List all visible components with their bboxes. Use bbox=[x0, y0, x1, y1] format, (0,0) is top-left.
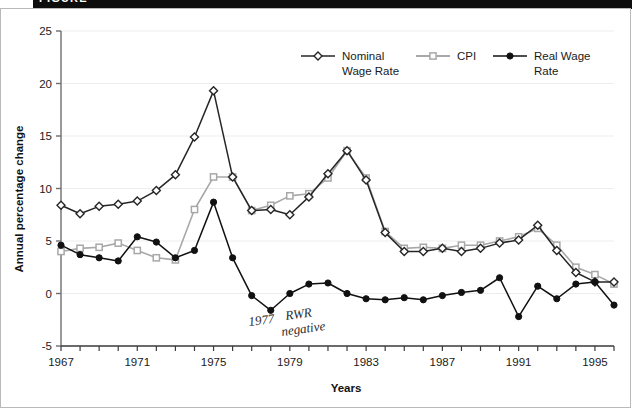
x-axis-tick-labels: 19671971197519791983198719911995 bbox=[48, 346, 614, 368]
legend-label: CPI bbox=[457, 50, 476, 62]
y-axis-tick-labels: -50510152025 bbox=[39, 25, 61, 352]
figure-container: FIGURE -50510152025 19671971197519791983… bbox=[0, 0, 632, 409]
data-point-marker bbox=[554, 296, 560, 302]
data-point-marker bbox=[96, 255, 102, 261]
line-chart: -50510152025 196719711975197919831987199… bbox=[1, 9, 632, 409]
data-point-marker bbox=[573, 281, 579, 287]
series-line bbox=[61, 202, 614, 316]
x-axis-tick-label: 1995 bbox=[582, 356, 608, 368]
legend-item[interactable]: CPI bbox=[416, 50, 476, 62]
data-point-marker bbox=[57, 201, 65, 209]
data-point-marker bbox=[58, 248, 64, 254]
y-axis-tick-label: 25 bbox=[39, 25, 52, 37]
data-point-marker bbox=[592, 279, 598, 285]
data-point-marker bbox=[77, 252, 83, 258]
data-point-marker bbox=[382, 297, 388, 303]
data-point-marker bbox=[325, 280, 331, 286]
data-point-marker bbox=[306, 281, 312, 287]
data-point-marker bbox=[115, 240, 121, 246]
data-series-layer bbox=[57, 87, 618, 320]
x-axis-tick-label: 1991 bbox=[506, 356, 532, 368]
data-series bbox=[58, 199, 617, 320]
data-point-marker bbox=[516, 314, 522, 320]
chart-legend: NominalWage RateCPIReal WageRate bbox=[301, 50, 590, 77]
x-axis-title: Years bbox=[331, 382, 362, 394]
data-point-marker bbox=[458, 289, 464, 295]
data-point-marker bbox=[430, 53, 436, 59]
legend-item[interactable]: Real WageRate bbox=[493, 50, 590, 77]
data-point-marker bbox=[496, 275, 502, 281]
data-point-marker bbox=[76, 210, 84, 218]
data-point-marker bbox=[172, 255, 178, 261]
handwritten-annotation: 1977RWRnegative bbox=[248, 304, 327, 339]
y-axis-tick-label: -5 bbox=[42, 340, 52, 352]
data-point-marker bbox=[153, 239, 159, 245]
data-point-marker bbox=[507, 53, 513, 59]
x-axis-tick-label: 1971 bbox=[124, 356, 150, 368]
data-point-marker bbox=[611, 302, 617, 308]
data-point-marker bbox=[249, 293, 255, 299]
y-axis-tick-label: 0 bbox=[46, 288, 52, 300]
legend-label: Rate bbox=[534, 65, 558, 77]
data-point-marker bbox=[401, 295, 407, 301]
y-axis-tick-label: 5 bbox=[46, 235, 52, 247]
data-point-marker bbox=[287, 193, 293, 199]
data-point-marker bbox=[96, 244, 102, 250]
x-axis-tick-label: 1983 bbox=[353, 356, 379, 368]
data-point-marker bbox=[314, 52, 322, 60]
series-line bbox=[61, 151, 614, 284]
data-point-marker bbox=[535, 283, 541, 289]
figure-header-label: FIGURE bbox=[39, 0, 88, 4]
data-point-marker bbox=[210, 87, 218, 95]
data-point-marker bbox=[191, 206, 197, 212]
legend-label: Nominal bbox=[342, 50, 384, 62]
data-point-marker bbox=[210, 199, 216, 205]
annotation-year: 1977 bbox=[248, 311, 276, 329]
data-point-marker bbox=[190, 133, 198, 141]
data-point-marker bbox=[133, 197, 141, 205]
data-point-marker bbox=[191, 247, 197, 253]
data-point-marker bbox=[134, 247, 140, 253]
x-axis-tick-label: 1975 bbox=[201, 356, 227, 368]
data-point-marker bbox=[77, 245, 83, 251]
figure-frame: -50510152025 196719711975197919831987199… bbox=[0, 8, 631, 408]
data-point-marker bbox=[363, 296, 369, 302]
data-point-marker bbox=[230, 255, 236, 261]
data-point-marker bbox=[95, 202, 103, 210]
data-point-marker bbox=[153, 255, 159, 261]
data-point-marker bbox=[592, 272, 598, 278]
legend-label: Wage Rate bbox=[342, 65, 399, 77]
x-axis-tick-label: 1967 bbox=[48, 356, 74, 368]
data-point-marker bbox=[115, 258, 121, 264]
data-point-marker bbox=[439, 293, 445, 299]
y-axis-title: Annual percentage change bbox=[13, 126, 25, 273]
x-axis-tick-label: 1987 bbox=[430, 356, 456, 368]
data-point-marker bbox=[344, 290, 350, 296]
data-point-marker bbox=[114, 200, 122, 208]
legend-item[interactable]: NominalWage Rate bbox=[301, 50, 399, 77]
data-point-marker bbox=[420, 297, 426, 303]
y-axis-tick-label: 10 bbox=[39, 183, 52, 195]
legend-label: Real Wage bbox=[534, 50, 590, 62]
data-point-marker bbox=[58, 242, 64, 248]
y-axis-tick-label: 20 bbox=[39, 78, 52, 90]
data-point-marker bbox=[210, 174, 216, 180]
data-series bbox=[58, 148, 617, 288]
data-point-marker bbox=[477, 287, 483, 293]
x-axis-tick-label: 1979 bbox=[277, 356, 303, 368]
data-point-marker bbox=[134, 234, 140, 240]
y-axis-tick-label: 15 bbox=[39, 130, 52, 142]
data-point-marker bbox=[287, 290, 293, 296]
data-series bbox=[57, 87, 618, 286]
